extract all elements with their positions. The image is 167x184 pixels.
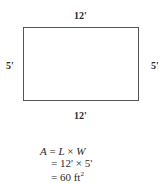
formula-line-2: = 12' × 5'	[40, 158, 92, 170]
width-symbol: W	[76, 145, 85, 157]
area-result: = 60 ft	[51, 171, 80, 183]
formula-line-1: A = L × W	[40, 146, 92, 158]
equals-sign: =	[47, 145, 59, 157]
rectangle-shape	[23, 27, 139, 101]
formula-line-3: = 60 ft2	[40, 169, 92, 183]
area-unit-exponent: 2	[80, 170, 84, 178]
left-width-label: 5'	[6, 61, 14, 71]
area-formula: A = L × W = 12' × 5' = 60 ft2	[40, 146, 92, 183]
area-symbol: A	[40, 145, 47, 157]
bottom-length-label: 12'	[74, 111, 87, 121]
right-width-label: 5'	[151, 61, 159, 71]
top-length-label: 12'	[74, 11, 87, 21]
times-sign: ×	[65, 145, 77, 157]
